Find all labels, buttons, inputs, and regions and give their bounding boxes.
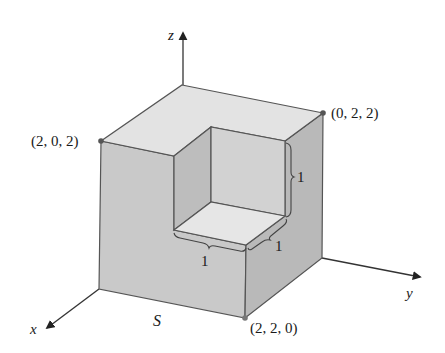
dim-label-front-width: 1 [201,253,209,269]
surface-label: S [153,312,161,329]
point-0-2-2 [320,110,326,116]
dim-label-height: 1 [297,169,305,185]
z-axis-label: z [167,27,174,43]
notch-back-wall [211,127,285,216]
point-label-2-2-0: (2, 2, 0) [250,320,298,337]
x-axis-label: x [29,321,37,337]
point-2-2-0 [242,315,248,321]
cube-notch-diagram: z x y (2, 0, 2) (0, 2, 2) (2, 2, 0) 1 1 … [0,0,445,353]
point-2-0-2 [98,138,104,144]
point-label-0-2-2: (0, 2, 2) [331,105,379,122]
x-axis [47,289,99,328]
dim-label-right-depth: 1 [275,238,283,254]
y-axis-label: y [404,285,413,301]
point-label-2-0-2: (2, 0, 2) [31,133,79,150]
y-axis [322,258,420,277]
